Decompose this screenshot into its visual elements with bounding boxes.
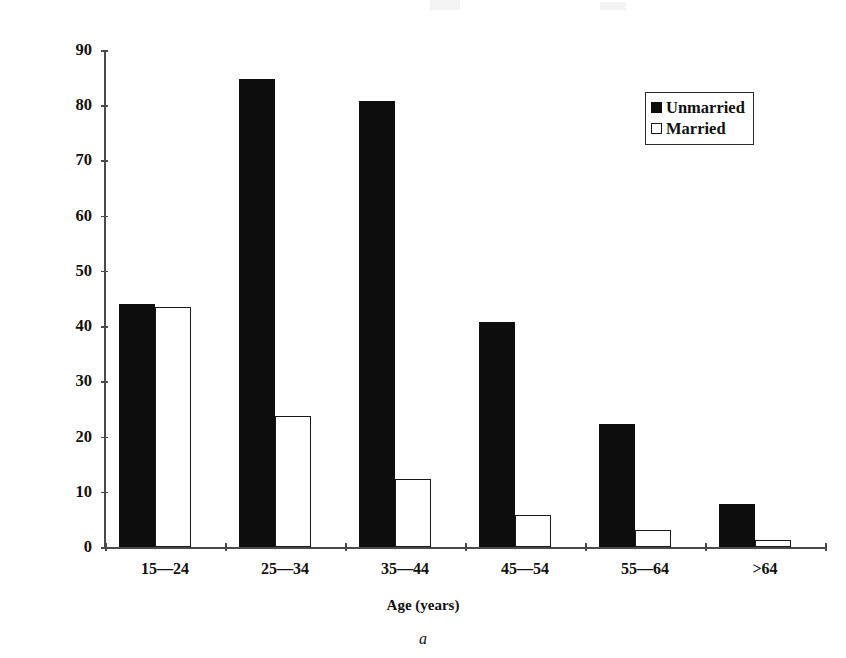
legend-item-married: Married [651, 118, 745, 139]
x-axis-tick [825, 543, 827, 551]
y-axis-tick-label: 90 [52, 42, 92, 58]
bar-unmarried-15—24 [119, 304, 155, 547]
chart-legend: Unmarried Married [645, 92, 754, 145]
y-axis-tick-label: 80 [52, 97, 92, 113]
bar-unmarried-45—54 [479, 322, 515, 547]
filled-square-icon [651, 102, 662, 113]
legend-label-married: Married [666, 119, 726, 139]
legend-item-unmarried: Unmarried [651, 97, 745, 118]
y-axis-tick-label: 0 [52, 539, 92, 555]
hollow-square-icon [651, 123, 662, 134]
y-axis-tick-label: 50 [52, 263, 92, 279]
bar-married-55—64 [635, 530, 671, 547]
figure-caption: a [0, 630, 846, 648]
legend-label-unmarried: Unmarried [666, 98, 745, 118]
y-axis-tick-label: 70 [52, 152, 92, 168]
y-axis-tick-label: 60 [52, 208, 92, 224]
y-axis-tick-label: 20 [52, 429, 92, 445]
x-axis-tick-label: 15—24 [105, 560, 225, 578]
x-axis-tick-label: 45—54 [465, 560, 585, 578]
x-axis-title: Age (years) [0, 596, 846, 615]
x-axis-tick-label: 35—44 [345, 560, 465, 578]
bar-unmarried->64 [719, 504, 755, 547]
bar-unmarried-55—64 [599, 424, 635, 547]
bar-married->64 [755, 540, 791, 547]
bar-married-25—34 [275, 416, 311, 547]
x-axis-tick-label: >64 [705, 560, 825, 578]
y-axis-title: Homicides per million per annum [14, 0, 40, 76]
bar-unmarried-25—34 [239, 79, 275, 547]
bar-married-35—44 [395, 479, 431, 547]
figure-panel: Homicides per million per annum 01020304… [0, 0, 846, 658]
y-axis-tick-label: 40 [52, 318, 92, 334]
x-axis-tick-label: 25—34 [225, 560, 345, 578]
x-axis-tick-label: 55—64 [585, 560, 705, 578]
y-axis-tick-label: 30 [52, 373, 92, 389]
scan-artifact [600, 2, 626, 10]
scan-artifact [430, 0, 460, 10]
bar-married-45—54 [515, 515, 551, 547]
bar-married-15—24 [155, 307, 191, 547]
y-axis-tick-label: 10 [52, 484, 92, 500]
bar-unmarried-35—44 [359, 101, 395, 547]
